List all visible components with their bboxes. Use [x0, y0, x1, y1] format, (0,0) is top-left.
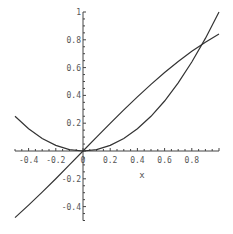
curve-sinx [15, 34, 219, 218]
y-tick-label: -0.2 [62, 175, 81, 184]
x-tick-label: 0.6 [157, 156, 172, 165]
y-tick-label: 0.4 [67, 91, 82, 100]
chart: -0.4-0.200.20.40.60.8-0.4-0.20.20.40.60.… [0, 0, 233, 234]
x-axis-label: x [139, 170, 145, 180]
tick-labels: -0.4-0.200.20.40.60.8-0.4-0.20.20.40.60.… [19, 8, 199, 212]
x-tick-label: 0.2 [103, 156, 118, 165]
x-tick-label: 0 [81, 156, 86, 165]
y-tick-label: 1 [76, 8, 81, 17]
x-tick-label: 0.8 [185, 156, 200, 165]
y-tick-label: -0.4 [62, 203, 81, 212]
curves [15, 12, 219, 218]
x-tick-label: 0.4 [130, 156, 145, 165]
x-tick-label: -0.4 [19, 156, 38, 165]
y-tick-label: 0.2 [67, 119, 82, 128]
y-tick-label: 0.6 [67, 64, 82, 73]
y-tick-label: 0.8 [67, 36, 82, 45]
x-tick-label: -0.2 [46, 156, 65, 165]
curve-x2 [15, 12, 219, 151]
